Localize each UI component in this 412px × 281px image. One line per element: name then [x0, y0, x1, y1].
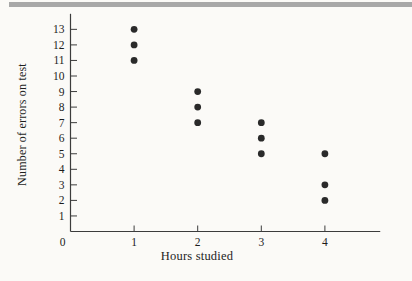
data-point: [131, 26, 138, 33]
data-point: [322, 181, 329, 188]
x-tick-label: 4: [322, 236, 328, 248]
y-tick-label: 13: [53, 23, 65, 35]
y-tick-label: 11: [53, 54, 64, 66]
x-tick-label: 0: [60, 236, 66, 248]
y-tick-label: 4: [59, 163, 65, 175]
data-point: [322, 197, 329, 204]
data-point: [194, 119, 201, 126]
data-point: [258, 135, 265, 142]
x-tick-label: 1: [131, 236, 137, 248]
plot-svg: 0123412345678910111213: [0, 0, 412, 281]
data-point: [322, 150, 329, 157]
y-tick-label: 9: [59, 86, 65, 98]
data-point: [131, 42, 138, 49]
y-tick-label: 3: [59, 179, 65, 191]
x-tick-label: 2: [195, 236, 201, 248]
y-axis-title: Number of errors on test: [15, 37, 30, 213]
y-tick-label: 1: [59, 210, 65, 222]
x-axis-title: Hours studied: [97, 249, 297, 264]
y-tick-label: 12: [53, 39, 65, 51]
data-point: [258, 150, 265, 157]
scatter-plot-figure: 0123412345678910111213 Number of errors …: [0, 0, 412, 281]
data-point: [131, 57, 138, 64]
page: 0123412345678910111213 Number of errors …: [0, 0, 412, 281]
y-tick-label: 6: [59, 132, 65, 144]
y-tick-label: 8: [59, 101, 65, 113]
y-tick-label: 5: [59, 148, 65, 160]
data-point: [194, 88, 201, 95]
data-point: [258, 119, 265, 126]
x-tick-label: 3: [258, 236, 264, 248]
y-tick-label: 10: [53, 70, 65, 82]
y-tick-label: 7: [59, 117, 65, 129]
data-point: [194, 104, 201, 111]
y-tick-label: 2: [59, 194, 65, 206]
